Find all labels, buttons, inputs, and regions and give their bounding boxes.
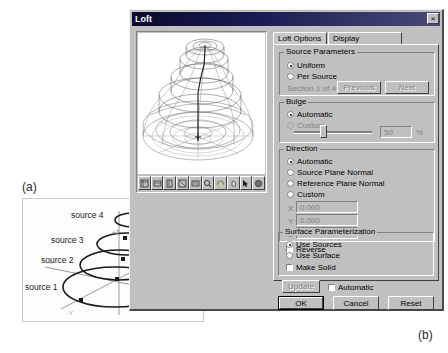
update-button[interactable]: Update — [282, 280, 320, 293]
select-arrow-icon[interactable] — [240, 176, 253, 190]
bulge-group: Bulge Automatic Custom 50 % — [279, 102, 435, 143]
radio-per-source-mark — [287, 73, 294, 80]
axis-label-neg-y: -Y — [67, 310, 73, 316]
ok-button-label: OK — [279, 297, 323, 309]
radio-uniform[interactable]: Uniform — [287, 61, 325, 70]
axis-label-z: +Z — [112, 229, 120, 235]
close-icon[interactable]: × — [427, 13, 439, 24]
cancel-button[interactable]: Cancel — [333, 296, 379, 310]
radio-reference-plane-normal-mark — [287, 180, 294, 187]
zoom-icon[interactable] — [202, 176, 215, 190]
bulge-percent-label: % — [416, 128, 423, 137]
direction-y-field[interactable]: 0.000 — [296, 214, 358, 226]
radio-reference-plane-normal[interactable]: Reference Plane Normal — [287, 179, 385, 188]
figure-label-a: (a) — [22, 180, 37, 194]
dialog-title-bar[interactable]: Loft × — [132, 12, 440, 26]
curve-start-points — [79, 236, 127, 302]
bulge-value-field[interactable]: 50 — [380, 126, 412, 138]
radio-direction-automatic-label: Automatic — [297, 157, 333, 166]
radio-source-plane-normal-label: Source Plane Normal — [297, 168, 373, 177]
front-view-icon[interactable] — [151, 176, 164, 190]
radio-bulge-custom[interactable]: Custom — [287, 121, 325, 130]
radio-uniform-mark — [287, 62, 294, 69]
source-parameters-group: Source Parameters Uniform Per Source Sec… — [279, 52, 435, 96]
checkbox-make-solid-label: Make Solid — [296, 263, 336, 272]
radio-use-surface-mark — [286, 252, 293, 259]
direction-title: Direction — [284, 145, 320, 153]
direction-x-field[interactable]: 0.000 — [296, 201, 358, 213]
radio-per-source-label: Per Source — [297, 72, 337, 81]
checkbox-automatic-update-label: Automatic — [338, 283, 374, 292]
side-view-icon[interactable] — [163, 176, 176, 190]
bulge-title: Bulge — [284, 98, 308, 106]
ok-button[interactable]: OK — [278, 296, 324, 310]
bulge-slider-thumb[interactable] — [320, 125, 327, 138]
source-4-label: source 4 — [71, 210, 104, 220]
axis-label-x: +X — [45, 259, 53, 265]
top-view-icon[interactable] — [176, 176, 189, 190]
surface-parameterization-title: Surface Parameterization — [283, 228, 377, 236]
seam-curve — [198, 46, 205, 141]
radio-bulge-automatic[interactable]: Automatic — [287, 110, 333, 119]
bulge-slider-track[interactable] — [294, 131, 372, 134]
loft-wireframe-preview — [138, 33, 265, 174]
radio-per-source[interactable]: Per Source — [287, 72, 337, 81]
radio-bulge-custom-mark — [287, 122, 294, 129]
radio-direction-custom[interactable]: Custom — [287, 190, 325, 199]
source-1-label: source 1 — [25, 282, 58, 292]
radio-bulge-automatic-mark — [287, 111, 294, 118]
radio-reference-plane-normal-label: Reference Plane Normal — [297, 179, 385, 188]
loft-dialog: Loft × — [129, 9, 444, 311]
next-button[interactable]: Next — [385, 81, 429, 94]
radio-use-sources-mark — [286, 241, 293, 248]
radio-direction-custom-label: Custom — [297, 190, 325, 199]
pan-icon[interactable] — [227, 176, 240, 190]
preview-viewport-panel — [136, 31, 267, 193]
radio-use-sources-label: Use Sources — [296, 240, 342, 249]
previous-button[interactable]: Previous — [337, 81, 381, 94]
source-3-label: source 3 — [51, 235, 84, 245]
radio-use-sources[interactable]: Use Sources — [286, 240, 342, 249]
checkbox-make-solid-mark — [286, 264, 293, 271]
source-parameters-title: Source Parameters — [284, 48, 357, 56]
checkbox-make-solid[interactable]: Make Solid — [286, 263, 336, 272]
direction-y-label: Y — [288, 217, 293, 226]
direction-x-label: X — [288, 204, 293, 213]
surface-parameterization-group: Surface Parameterization Use Sources Use… — [278, 232, 434, 276]
radio-use-surface-label: Use Surface — [296, 251, 340, 260]
section-counter-text: Section 1 of 4 — [287, 84, 336, 93]
radio-direction-custom-mark — [287, 191, 294, 198]
viewport-toolbar — [138, 175, 265, 191]
radio-direction-automatic-mark — [287, 158, 294, 165]
fit-view-icon[interactable] — [189, 176, 202, 190]
radio-source-plane-normal-mark — [287, 169, 294, 176]
radio-direction-automatic[interactable]: Automatic — [287, 157, 333, 166]
checkbox-automatic-update-mark — [328, 284, 335, 291]
preview-viewport[interactable] — [138, 33, 265, 174]
radio-source-plane-normal[interactable]: Source Plane Normal — [287, 168, 373, 177]
iso-view-icon[interactable] — [138, 176, 151, 190]
figure-label-b: (b) — [418, 328, 433, 342]
radio-bulge-automatic-label: Automatic — [297, 110, 333, 119]
reset-button[interactable]: Reset — [388, 296, 434, 310]
checkbox-automatic-update[interactable]: Automatic — [328, 283, 374, 292]
radio-uniform-label: Uniform — [297, 61, 325, 70]
dialog-title: Loft — [132, 14, 152, 24]
orbit-icon[interactable] — [252, 176, 265, 190]
radio-use-surface[interactable]: Use Surface — [286, 251, 340, 260]
rotate-icon[interactable] — [214, 176, 227, 190]
